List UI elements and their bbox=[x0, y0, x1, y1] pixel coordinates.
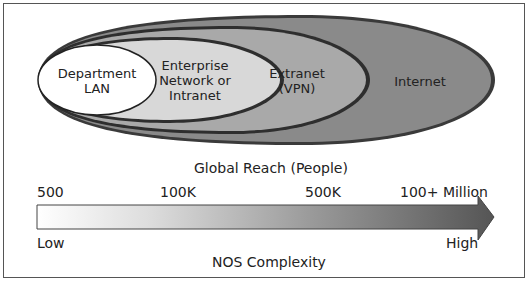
tick-100k: 100K bbox=[160, 184, 196, 200]
internet-label: Internet bbox=[385, 74, 455, 89]
extranet-label: Extranet (VPN) bbox=[262, 66, 332, 96]
enterprise-line-2: Network or bbox=[155, 73, 235, 88]
tick-100-million: 100+ Million bbox=[400, 184, 488, 200]
global-reach-title: Global Reach (People) bbox=[194, 160, 348, 176]
low-label: Low bbox=[37, 235, 65, 251]
tick-500k: 500K bbox=[305, 184, 341, 200]
complexity-arrow bbox=[37, 196, 494, 240]
nos-complexity-caption: NOS Complexity bbox=[212, 254, 326, 270]
enterprise-line-3: Intranet bbox=[155, 88, 235, 103]
tick-500: 500 bbox=[37, 184, 64, 200]
department-lan-line-1: Department bbox=[52, 66, 142, 81]
department-lan-label: Department LAN bbox=[52, 66, 142, 96]
enterprise-label: Enterprise Network or Intranet bbox=[155, 58, 235, 103]
extranet-line-1: Extranet bbox=[262, 66, 332, 81]
high-label: High bbox=[446, 235, 478, 251]
department-lan-line-2: LAN bbox=[52, 81, 142, 96]
enterprise-line-1: Enterprise bbox=[155, 58, 235, 73]
extranet-line-2: (VPN) bbox=[262, 81, 332, 96]
